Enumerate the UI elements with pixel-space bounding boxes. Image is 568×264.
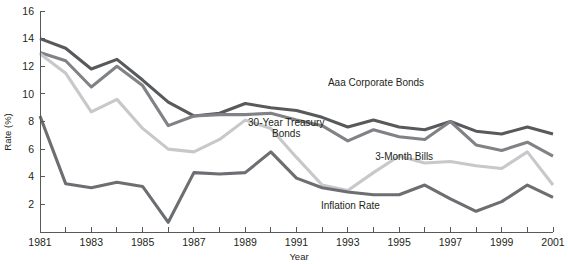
y-tick-label: 6 <box>28 143 34 155</box>
x-tick-label: 2001 <box>541 236 565 248</box>
interest-rate-line-chart: 246810121416 198119831985198719891991199… <box>0 0 568 264</box>
y-tick-label: 14 <box>22 32 34 44</box>
y-tick-label: 12 <box>22 60 34 72</box>
y-tick-label: 16 <box>22 5 34 17</box>
series-label-inflation-rate: Inflation Rate <box>321 200 380 211</box>
x-tick-label: 1999 <box>490 236 514 248</box>
series-label-30-year-treasury-bonds: Bonds <box>272 128 300 139</box>
x-axis-tick-labels: 1981198319851987198919911993199519971999… <box>28 236 565 248</box>
y-axis-tick-labels: 246810121416 <box>22 5 34 210</box>
x-axis-title: Year <box>289 251 308 262</box>
x-tick-label: 1987 <box>182 236 206 248</box>
series-label-30-year-treasury-bonds: 30-Year Treasury <box>248 117 324 128</box>
y-tick-label: 2 <box>28 198 34 210</box>
y-tick-label: 10 <box>22 88 34 100</box>
x-tick-label: 1991 <box>285 236 309 248</box>
x-tick-label: 1985 <box>131 236 155 248</box>
x-tick-label: 1993 <box>336 236 360 248</box>
y-tick-label: 4 <box>28 170 34 182</box>
series-line-30-year-treasury-bonds <box>40 52 553 156</box>
x-tick-label: 1989 <box>234 236 258 248</box>
x-tick-label: 1983 <box>80 236 104 248</box>
x-tick-label: 1995 <box>387 236 411 248</box>
series-label-3-month-bills: 3-Month Bills <box>375 151 433 162</box>
y-axis-title: Rate (%) <box>2 113 13 150</box>
series-label-aaa-corporate-bonds: Aaa Corporate Bonds <box>328 77 424 88</box>
chart-canvas: 246810121416 198119831985198719891991199… <box>0 0 568 264</box>
y-tick-label: 8 <box>28 115 34 127</box>
x-tick-label: 1981 <box>28 236 52 248</box>
x-tick-label: 1997 <box>439 236 463 248</box>
